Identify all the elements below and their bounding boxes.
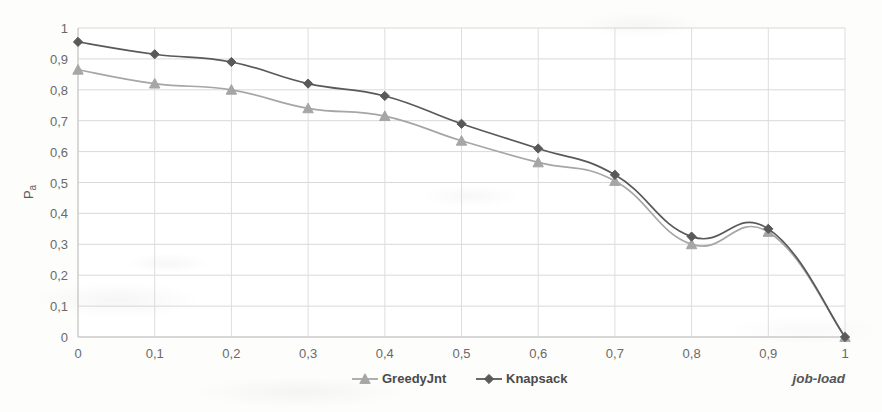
- x-axis-title: job-load: [791, 371, 846, 386]
- y-tick-label: 0,2: [50, 268, 68, 283]
- chart-container: 00,10,20,30,40,50,60,70,80,91 00,10,20,3…: [0, 0, 882, 412]
- y-axis-title-subscript: a: [27, 184, 38, 190]
- x-tick-label: 0,5: [452, 346, 470, 361]
- y-tick-label: 1: [61, 21, 68, 36]
- x-tick-label: 0,9: [759, 346, 777, 361]
- legend-label: Knapsack: [506, 371, 568, 386]
- y-tick-labels: 00,10,20,30,40,50,60,70,80,91: [50, 21, 68, 345]
- x-tick-label: 1: [841, 346, 848, 361]
- x-tick-label: 0,3: [299, 346, 317, 361]
- y-axis-title: Pa: [21, 184, 38, 199]
- x-tick-labels: 00,10,20,30,40,50,60,70,80,91: [74, 346, 848, 361]
- chart-legend: GreedyJntKnapsack: [352, 371, 568, 386]
- y-tick-label: 0,3: [50, 237, 68, 252]
- x-tick-label: 0,4: [376, 346, 394, 361]
- legend-item-knapsack[interactable]: Knapsack: [476, 371, 568, 386]
- line-chart: 00,10,20,30,40,50,60,70,80,91 00,10,20,3…: [0, 0, 882, 412]
- x-tick-label: 0,7: [606, 346, 624, 361]
- y-tick-label: 0,1: [50, 299, 68, 314]
- y-tick-label: 0,9: [50, 52, 68, 67]
- y-tick-label: 0,4: [50, 206, 68, 221]
- x-tick-label: 0: [74, 346, 81, 361]
- y-tick-label: 0,5: [50, 176, 68, 191]
- y-axis-title-base: P: [21, 190, 36, 199]
- data-point-marker-diamond: [484, 374, 493, 383]
- y-tick-label: 0,7: [50, 114, 68, 129]
- y-tick-label: 0,8: [50, 83, 68, 98]
- y-tick-label: 0: [61, 330, 68, 345]
- x-tick-label: 0,6: [529, 346, 547, 361]
- x-tick-label: 0,8: [683, 346, 701, 361]
- legend-item-greedyjnt[interactable]: GreedyJnt: [352, 371, 447, 386]
- svg-text:Pa: Pa: [21, 184, 38, 199]
- y-tick-label: 0,6: [50, 145, 68, 160]
- x-tick-label: 0,1: [146, 346, 164, 361]
- legend-label: GreedyJnt: [382, 371, 447, 386]
- x-tick-label: 0,2: [222, 346, 240, 361]
